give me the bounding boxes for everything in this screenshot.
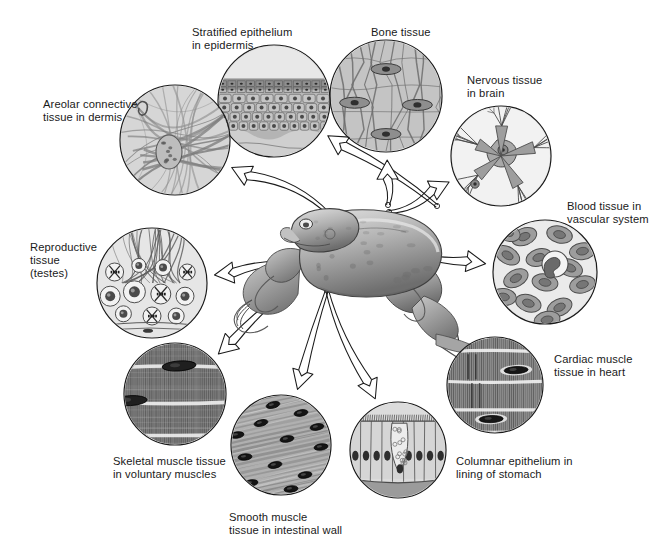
tissue-label-blood-tissue: Blood tissue invascular system <box>567 200 649 226</box>
tissue-label-line: Skeletal muscle tissue <box>113 455 226 468</box>
tissue-label-line: vascular system <box>567 213 649 226</box>
tissue-diagram: Stratified epitheliumin epidermisBone ti… <box>0 0 672 558</box>
arrow-bone-tissue <box>377 160 398 208</box>
tissue-label-cardiac-muscle: Cardiac muscletissue in heart <box>554 353 633 379</box>
tissue-label-line: tissue in dermis <box>43 111 137 124</box>
micrograph-bone-tissue <box>322 36 450 152</box>
tissue-label-smooth-muscle: Smooth muscletissue in intestinal wall <box>229 511 342 537</box>
arrow-nervous-tissue <box>386 181 449 215</box>
tissue-label-line: tissue <box>30 254 97 267</box>
tissue-label-nervous-tissue: Nervous tissuein brain <box>467 74 542 100</box>
micrograph-nervous-tissue <box>439 84 580 224</box>
tissue-label-areolar-connective: Areolar connectivetissue in dermis <box>43 98 137 124</box>
tissue-label-line: Areolar connective <box>43 98 137 111</box>
tissue-label-line: tissue in intestinal wall <box>229 524 342 537</box>
arrow-smooth-muscle <box>293 287 330 389</box>
tissue-label-line: Cardiac muscle <box>554 353 633 366</box>
tissue-label-skeletal-muscle: Skeletal muscle tissuein voluntary muscl… <box>113 455 226 481</box>
tissue-label-line: tissue in heart <box>554 366 633 379</box>
tissue-label-line: lining of stomach <box>456 468 573 481</box>
tissue-label-line: Stratified epithelium <box>192 26 292 39</box>
arrow-columnar-epithelium <box>324 287 377 398</box>
micrograph-blood-tissue <box>490 220 597 330</box>
micrograph-smooth-muscle <box>223 373 339 514</box>
micrograph-reproductive-tissue <box>93 222 211 338</box>
tissue-label-line: Reproductive <box>30 241 97 254</box>
tissue-label-line: Bone tissue <box>371 26 431 39</box>
tissue-label-bone-tissue: Bone tissue <box>371 26 431 39</box>
frog-illustration <box>234 209 486 366</box>
tissue-label-line: Nervous tissue <box>467 74 542 87</box>
tissue-label-line: Smooth muscle <box>229 511 342 524</box>
tissue-label-line: in brain <box>467 87 542 100</box>
tissue-label-line: (testes) <box>30 267 97 280</box>
tissue-label-line: in epidermis <box>192 39 292 52</box>
tissue-label-line: in voluntary muscles <box>113 468 226 481</box>
tissue-label-columnar-epithelium: Columnar epithelium inlining of stomach <box>456 455 573 481</box>
tissue-label-line: Blood tissue in <box>567 200 649 213</box>
micrograph-skeletal-muscle <box>113 343 230 445</box>
tissue-label-line: Columnar epithelium in <box>456 455 573 468</box>
tissue-label-stratified-epithelium: Stratified epitheliumin epidermis <box>192 26 292 52</box>
tissue-label-reproductive-tissue: Reproductivetissue(testes) <box>30 241 97 281</box>
